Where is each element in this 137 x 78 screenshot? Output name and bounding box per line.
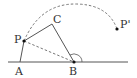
geometry-diagram: P A B C P' xyxy=(0,0,137,78)
label-p-prime: P' xyxy=(120,18,130,31)
label-a: A xyxy=(14,65,24,78)
point-p xyxy=(22,39,25,42)
rotation-arc-dashed xyxy=(24,4,117,41)
point-p-prime xyxy=(115,27,118,30)
segment-pb-dashed xyxy=(24,41,74,62)
point-b xyxy=(72,60,75,63)
label-c: C xyxy=(53,13,61,26)
label-b: B xyxy=(69,65,77,78)
label-p: P xyxy=(14,33,22,46)
segment-cb xyxy=(52,24,74,62)
